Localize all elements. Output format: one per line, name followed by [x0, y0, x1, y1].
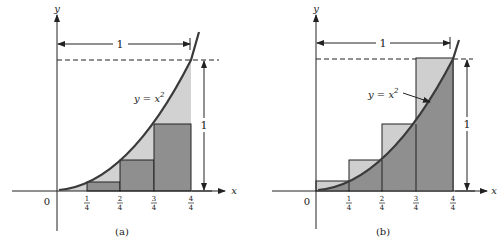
svg-text:3: 3 — [152, 195, 156, 203]
tick-2-4-b: 2 4 — [379, 195, 385, 212]
origin-label-a: 0 — [44, 196, 50, 207]
origin-label-b: 0 — [304, 196, 310, 207]
x-axis-label-b: x — [491, 185, 497, 196]
svg-text:4: 4 — [152, 204, 157, 212]
tick-1-4-b: 1 4 — [346, 195, 352, 212]
tick-2-4-a: 2 4 — [117, 195, 123, 212]
width-label-a: 1 — [117, 38, 124, 51]
height-label-a: 1 — [201, 119, 208, 132]
svg-text:4: 4 — [85, 204, 90, 212]
rect-a-2 — [87, 182, 120, 191]
tick-3-4-b: 3 4 — [413, 195, 419, 212]
x-axis-label-a: x — [231, 185, 237, 196]
curve-label-a: y = x2 — [133, 91, 165, 104]
svg-text:4: 4 — [189, 195, 194, 203]
panel-a: 1 1 y x 0 y = x2 1 4 2 4 3 4 4 — [12, 3, 237, 237]
y-axis-label-b: y — [312, 3, 319, 14]
svg-text:4: 4 — [347, 204, 352, 212]
tick-1-4-a: 1 4 — [84, 195, 90, 212]
svg-text:2: 2 — [380, 195, 384, 203]
width-label-b: 1 — [380, 37, 387, 50]
svg-text:2: 2 — [118, 195, 122, 203]
height-label-b: 1 — [464, 118, 471, 131]
y-axis-label-a: y — [53, 3, 60, 14]
svg-text:4: 4 — [118, 204, 123, 212]
svg-text:1: 1 — [85, 195, 89, 203]
rect-a-4 — [154, 124, 191, 191]
svg-text:4: 4 — [451, 204, 456, 212]
svg-text:4: 4 — [451, 195, 456, 203]
tick-4-4-b: 4 4 — [450, 195, 456, 212]
svg-text:4: 4 — [380, 204, 385, 212]
tick-4-4-a: 4 4 — [188, 195, 194, 212]
curve-label-b: y = x2 — [367, 87, 399, 100]
svg-text:4: 4 — [189, 204, 194, 212]
svg-text:3: 3 — [414, 195, 418, 203]
rect-a-3 — [120, 160, 154, 191]
svg-text:1: 1 — [347, 195, 351, 203]
caption-b: (b) — [376, 226, 390, 237]
caption-a: (a) — [115, 226, 129, 237]
svg-text:4: 4 — [414, 204, 419, 212]
figure-canvas: 1 1 y x 0 y = x2 1 4 2 4 3 4 4 — [0, 0, 498, 241]
panel-b: 1 1 y x 0 y = x2 1 4 2 4 3 4 4 — [272, 3, 497, 237]
tick-3-4-a: 3 4 — [151, 195, 157, 212]
